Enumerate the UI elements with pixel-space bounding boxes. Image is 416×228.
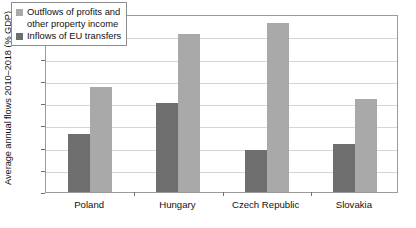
legend-label-inflows: Inflows of EU transfers <box>27 30 121 42</box>
bar <box>355 99 377 192</box>
legend-swatch-outflows-icon <box>16 9 23 16</box>
x-axis-separator <box>311 192 312 196</box>
bar <box>68 134 90 192</box>
bar <box>90 87 112 192</box>
bar <box>333 144 355 192</box>
x-category-label: Czech Republic <box>222 199 310 211</box>
legend-swatch-inflows-icon <box>16 33 23 40</box>
x-axis-separator <box>134 192 135 196</box>
bar <box>178 34 200 192</box>
legend-label-outflows-line1: Outflows of profits and <box>27 6 120 18</box>
x-category-label: Slovakia <box>310 199 398 211</box>
gridline <box>46 83 397 84</box>
bar-chart: Average annual flows 2010–2018 (% GDP) 0… <box>0 0 416 228</box>
legend-item-inflows: Inflows of EU transfers <box>16 30 121 42</box>
bar <box>245 150 267 192</box>
bar <box>156 103 178 192</box>
gridline <box>46 61 397 62</box>
x-category-label: Poland <box>45 199 133 211</box>
x-axis-separator <box>223 192 224 196</box>
y-tick-mark <box>41 193 45 194</box>
x-category-label: Hungary <box>133 199 221 211</box>
bar <box>267 23 289 192</box>
legend: Outflows of profits and other property i… <box>11 2 127 46</box>
legend-label-outflows-line2: other property income <box>16 18 121 30</box>
legend-item-outflows: Outflows of profits and <box>16 6 121 18</box>
